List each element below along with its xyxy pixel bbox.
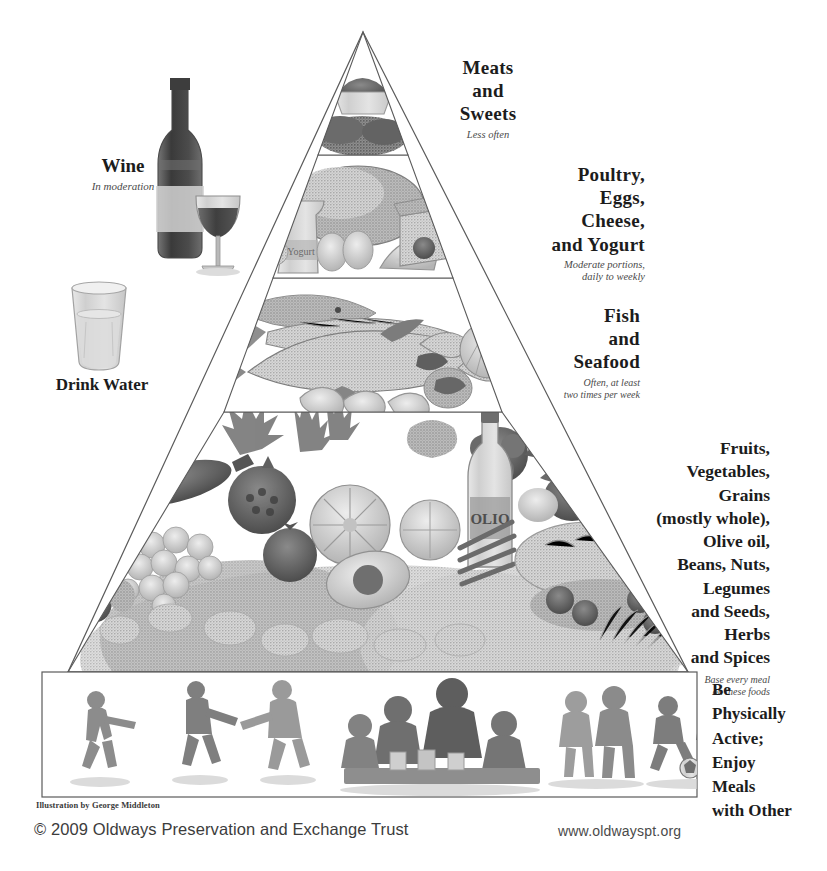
- base-band-title: Be Physically Active; Enjoy Meals with O…: [712, 678, 827, 824]
- illustration-credit: Illustration by George Middleton: [36, 800, 160, 810]
- svg-text:Yogurt: Yogurt: [287, 246, 315, 257]
- callout-label-wine: Wine In moderation: [58, 155, 188, 193]
- tier-subtitle-poultry: Moderate portions, daily to weekly: [435, 259, 645, 284]
- base-band-label-be-physically-active: Be Physically Active; Enjoy Meals with O…: [712, 678, 827, 824]
- callout-title-wine: Wine: [58, 155, 188, 177]
- callout-subtitle-wine: In moderation: [58, 180, 188, 193]
- yogurt-jar-icon: Yogurt: [278, 201, 324, 273]
- tier-label-fish-and-seafood: Fish and Seafood Often, at least two tim…: [470, 304, 640, 401]
- tier-title-plant-foods: Fruits, Vegetables, Grains (mostly whole…: [570, 437, 770, 670]
- poultry-eggs-cheese-yogurt-illustration: Yogurt: [256, 155, 453, 278]
- website-url[interactable]: www.oldwayspt.org: [558, 823, 681, 839]
- mediterranean-diet-pyramid-poster: OLIO: [0, 0, 827, 871]
- callout-label-drink-water: Drink Water: [27, 375, 177, 395]
- tier-subtitle-meats-and-sweets: Less often: [398, 129, 578, 142]
- callout-title-drink-water: Drink Water: [27, 375, 177, 395]
- tier-subtitle-fish: Often, at least two times per week: [470, 377, 640, 401]
- tier-title-poultry: Poultry, Eggs, Cheese, and Yogurt: [435, 163, 645, 256]
- tier-title-meats-and-sweets: Meats and Sweets: [398, 56, 578, 126]
- tier-label-meats-and-sweets: Meats and Sweets Less often: [398, 56, 578, 141]
- water-glass-illustration: [72, 282, 126, 370]
- copyright-notice: © 2009 Oldways Preservation and Exchange…: [34, 820, 408, 839]
- tier-label-plant-foods: Fruits, Vegetables, Grains (mostly whole…: [570, 437, 770, 698]
- tier-label-poultry-eggs-cheese-yogurt: Poultry, Eggs, Cheese, and Yogurt Modera…: [435, 163, 645, 284]
- tier-title-fish: Fish and Seafood: [470, 304, 640, 374]
